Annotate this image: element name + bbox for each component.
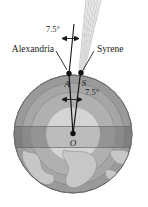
diagram-canvas: 7.5° Alexandria Syrene A S 7.5° O: [0, 0, 148, 207]
sun-rays-group: [79, 0, 101, 71]
point-syrene-dot: [78, 70, 83, 75]
point-alexandria-dot: [66, 71, 71, 76]
leader-alexandria: [56, 51, 67, 70]
label-syrene: Syrene: [97, 44, 123, 54]
angle-center-label: 7.5°: [85, 87, 99, 97]
label-alexandria: Alexandria: [12, 44, 55, 54]
label-point-o: O: [70, 138, 77, 148]
point-center-dot: [70, 131, 75, 136]
top-angle-marker: [62, 36, 79, 40]
gnomon-extension-line: [69, 24, 74, 74]
label-point-a: A: [63, 79, 70, 89]
eratosthenes-diagram: 7.5° Alexandria Syrene A S 7.5° O: [0, 0, 148, 207]
angle-top-label: 7.5°: [46, 24, 60, 34]
